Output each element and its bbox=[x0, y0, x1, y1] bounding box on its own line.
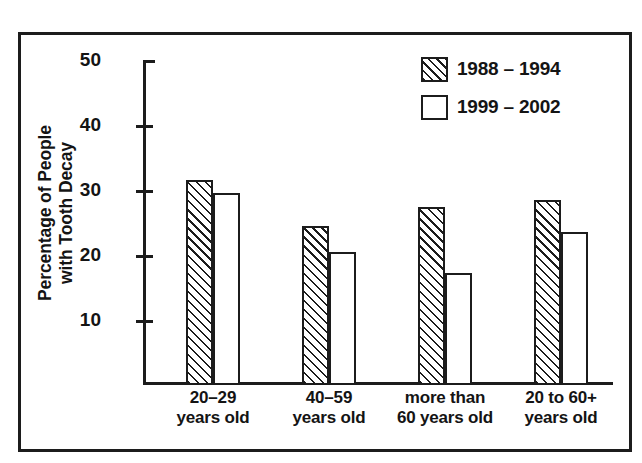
legend-label-1999-2002: 1999 – 2002 bbox=[457, 96, 560, 118]
legend-entry-1999-2002: 1999 – 2002 bbox=[421, 91, 560, 123]
x-tick-label-20-to-60plus-line-1: 20 to 60+ bbox=[486, 388, 636, 408]
bar-1988-1994-20-to-60plus bbox=[534, 200, 561, 385]
bar-1988-1994-more-than-60 bbox=[418, 207, 445, 385]
bar-1999-2002-40-59 bbox=[329, 252, 356, 385]
y-tick-label-20: 20 bbox=[41, 245, 101, 264]
y-tick-label-50: 50 bbox=[41, 50, 101, 69]
y-tick-label-40: 40 bbox=[41, 115, 101, 134]
y-axis-line bbox=[143, 60, 146, 385]
x-tick-label-20-to-60plus: 20 to 60+ years old bbox=[486, 388, 636, 428]
y-tick-20 bbox=[136, 255, 153, 258]
bar-1999-2002-20-29 bbox=[213, 193, 240, 385]
plot-area: Percentage of People with Tooth Decay 50… bbox=[21, 35, 635, 455]
y-tick-label-10: 10 bbox=[41, 310, 101, 329]
bar-1999-2002-more-than-60 bbox=[445, 273, 472, 385]
white-swatch-icon bbox=[421, 95, 448, 120]
bar-1988-1994-20-29 bbox=[186, 180, 213, 385]
y-tick-label-30: 30 bbox=[41, 180, 101, 199]
legend-entry-1988-1994: 1988 – 1994 bbox=[421, 53, 560, 85]
chart-border-frame: Percentage of People with Tooth Decay 50… bbox=[18, 32, 632, 452]
chart-legend: 1988 – 1994 1999 – 2002 bbox=[421, 53, 560, 129]
x-tick-label-20-to-60plus-line-2: years old bbox=[486, 408, 636, 428]
y-tick-10 bbox=[136, 320, 153, 323]
bar-1999-2002-20-to-60plus bbox=[561, 232, 588, 385]
y-tick-30 bbox=[136, 190, 153, 193]
hatched-swatch-icon bbox=[421, 57, 448, 82]
legend-label-1988-1994: 1988 – 1994 bbox=[457, 58, 560, 80]
bar-1988-1994-40-59 bbox=[302, 226, 329, 385]
y-tick-50 bbox=[143, 60, 155, 63]
bar-chart-figure: Percentage of People with Tooth Decay 50… bbox=[0, 0, 642, 463]
y-tick-40 bbox=[136, 125, 153, 128]
